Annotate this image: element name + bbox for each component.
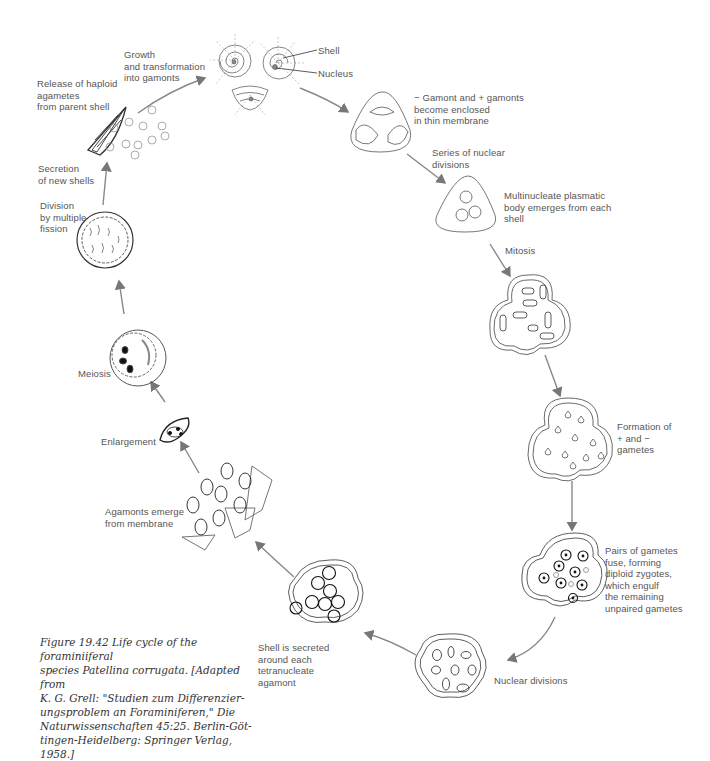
caption-line: ungsproblem an Foraminiferen," Die — [40, 705, 260, 719]
parent-shell-releasing-agametes — [88, 106, 169, 159]
caption-line: K. G. Grell: "Studien zum Differenzier- — [40, 691, 260, 705]
arrow-meiosis-to-division — [119, 281, 124, 314]
arrow-growth-to-gamont — [300, 88, 348, 112]
label-division: Division by multiple fission — [40, 200, 87, 235]
label-meiosis: Meiosis — [78, 368, 111, 380]
shell-secretion-cell — [289, 560, 364, 623]
gamonts-enclosed-membrane — [351, 92, 411, 152]
gamonts-with-shells — [210, 33, 317, 115]
label-secretion: Secretion of new shells — [38, 163, 94, 186]
zygote-formation — [522, 533, 607, 606]
arrow-division-to-release — [103, 163, 107, 205]
arrow-mitosis-to-formation — [545, 355, 560, 396]
mitosis-trefoil — [490, 275, 570, 355]
arrow-nuclear-to-shell — [365, 633, 416, 655]
figure-caption: Figure 19.42 Life cycle of the foraminii… — [40, 635, 260, 761]
meiosis-cell — [110, 330, 166, 386]
caption-line: Naturwissenschaften 45:25. Berlin-Göt- — [40, 719, 260, 733]
multinucleate-plasmatic-body — [436, 176, 496, 232]
label-mitosis: Mitosis — [505, 245, 535, 257]
nuclear-divisions-cell — [415, 634, 486, 698]
label-pairs-fuse: Pairs of gametes fuse, forming diploid z… — [605, 545, 683, 614]
label-nucleus: Nucleus — [318, 68, 353, 80]
label-release: Release of haploid agametes from parent … — [37, 78, 118, 113]
label-series-nuclear: Series of nuclear divisions — [432, 147, 505, 170]
label-nuclear-divisions: Nuclear divisions — [494, 675, 568, 687]
caption-line: tingen-Heidelberg: Springer Verlag, 1958… — [40, 733, 260, 761]
label-formation: Formation of + and − gametes — [617, 421, 672, 456]
label-enlargement: Enlargement — [101, 436, 156, 448]
label-multinucleate: Multinucleate plasmatic body emerges fro… — [504, 190, 611, 225]
arrow-pairs-to-nuclear — [508, 617, 555, 660]
caption-line: Figure 19.42 Life cycle of the foraminii… — [40, 635, 260, 663]
label-growth: Growth and transformation into gamonts — [124, 49, 205, 84]
label-agamonts-emerge: Agamonts emerge from membrane — [105, 506, 184, 529]
agamonts-emerging — [182, 463, 272, 550]
enlarged-agamont — [160, 418, 189, 442]
label-shell-secreted: Shell is secreted around each tetranucle… — [258, 642, 329, 688]
caption-line: species Patellina corrugata. [Adapted fr… — [40, 663, 260, 691]
label-gamont-enclosed: − Gamont and + gamonts become enclosed i… — [414, 92, 524, 127]
arrow-shell-to-agamonts — [256, 542, 294, 577]
gamete-formation — [528, 398, 612, 481]
arrow-enlargement-to-meiosis — [151, 382, 165, 402]
arrow-agamonts-to-enlargement — [181, 442, 199, 473]
label-shell: Shell — [318, 45, 340, 57]
